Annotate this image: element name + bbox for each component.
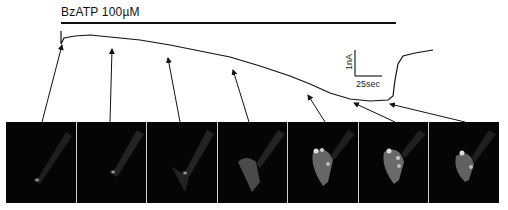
scale-bar: [355, 50, 382, 76]
arrow-frame-1: [42, 45, 62, 122]
arrow-frame-7: [390, 104, 465, 122]
scale-time-label: 25sec: [356, 79, 380, 89]
arrow-frame-6: [354, 103, 395, 122]
fluorescence-panels: [6, 122, 499, 203]
image-panel-4: [218, 122, 288, 203]
arrow-frame-4: [233, 70, 249, 122]
figure: BzATP 100µM 1nA 25sec: [0, 0, 508, 210]
arrow-frame-5: [308, 95, 325, 122]
image-panel-6: [359, 122, 429, 203]
drug-label: BzATP 100µM: [61, 5, 140, 19]
image-panel-7: [429, 122, 499, 203]
image-panel-2: [77, 122, 147, 203]
image-panel-3: [147, 122, 217, 203]
scale-current-label: 1nA: [344, 50, 354, 74]
arrow-frame-2: [110, 49, 112, 122]
image-panel-5: [288, 122, 358, 203]
arrows: [42, 45, 465, 122]
arrow-frame-3: [168, 58, 180, 122]
current-trace: [61, 31, 433, 101]
image-panel-1: [6, 122, 76, 203]
